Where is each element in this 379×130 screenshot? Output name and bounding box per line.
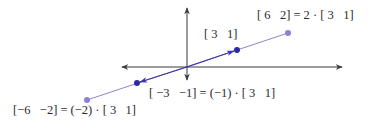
vector-neg-v-arrow [140, 67, 187, 82]
label-neg-v: [ −3 −1] = (−1) · [ 3 1] [149, 87, 275, 100]
point-neg-v [134, 80, 140, 86]
point-2v [285, 30, 291, 36]
point-v [234, 47, 240, 53]
label-neg-2v: [−6 −2] = (−2) · [ 3 1] [13, 104, 136, 117]
label-2v: [ 6 2] = 2 · [ 3 1] [257, 9, 354, 22]
label-v: [ 3 1] [204, 28, 237, 41]
vector-diagram: [ 6 2] = 2 · [ 3 1] [ 3 1] [ −3 −1] = (−… [0, 0, 379, 130]
vector-v-arrow [187, 51, 234, 67]
